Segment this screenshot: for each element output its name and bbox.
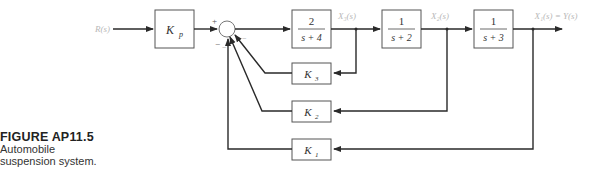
k3-block-label: K — [303, 68, 312, 80]
k1-block-sub: 1 — [315, 151, 319, 159]
x3-feedback-line — [334, 29, 356, 73]
caption-line-1: Automobile — [0, 143, 97, 155]
sign-minus-k2: − — [222, 43, 227, 52]
k2-block: K 2 — [292, 101, 331, 122]
k1-block-label: K — [303, 144, 312, 156]
figure-caption: FIGURE AP11.5 Automobile suspension syst… — [0, 131, 97, 167]
caption-line-2: suspension system. — [0, 155, 97, 167]
k3-block-sub: 3 — [314, 75, 319, 83]
sign-minus-k3: − — [242, 34, 247, 43]
g1-numerator: 2 — [309, 15, 315, 27]
summing-junction: + − − − — [212, 16, 247, 52]
figure-label: FIGURE AP11.5 — [0, 131, 97, 143]
g3-denominator: s + 3 — [483, 32, 504, 43]
g1-block: 2 s + 4 — [292, 10, 331, 48]
g2-numerator: 1 — [399, 15, 405, 27]
input-signal-label: R(s) — [94, 24, 110, 34]
x3-signal-label: X₃(s) — [337, 11, 356, 21]
output-signal-label: X₁(s) = Y(s) — [533, 11, 577, 21]
kp-block-sub: p — [178, 30, 183, 39]
x2-signal-label: X₂(s) — [430, 11, 449, 21]
g3-block: 1 s + 3 — [474, 10, 513, 48]
g2-denominator: s + 2 — [391, 32, 412, 43]
sign-plus: + — [212, 16, 217, 26]
g3-numerator: 1 — [491, 15, 497, 27]
kp-block: K p — [155, 10, 194, 48]
g2-block: 1 s + 2 — [382, 10, 421, 48]
k2-to-summer-line — [230, 37, 292, 111]
g1-denominator: s + 4 — [301, 32, 322, 43]
sign-minus-k1: − — [215, 39, 220, 49]
k2-block-sub: 2 — [315, 113, 319, 121]
k3-block: K 3 — [292, 63, 331, 84]
kp-block-label: K — [165, 23, 175, 37]
k2-block-label: K — [303, 106, 312, 118]
k1-block: K 1 — [292, 139, 331, 160]
